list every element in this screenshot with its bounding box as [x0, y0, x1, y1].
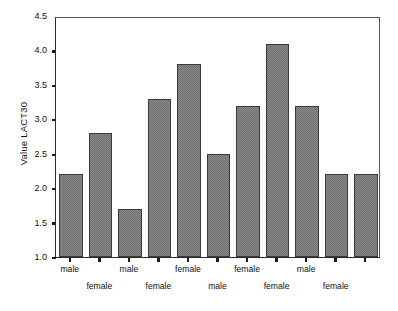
x-axis-tick-mark	[157, 258, 159, 262]
bar	[266, 44, 290, 257]
y-axis-tick-label: 4.0	[34, 45, 47, 55]
plot-area	[55, 17, 380, 258]
y-axis-tick-label: 1.5	[34, 218, 47, 228]
bar	[295, 106, 319, 257]
bar	[148, 99, 172, 257]
bar	[118, 209, 142, 257]
x-axis-tick-mark	[246, 258, 248, 262]
x-axis-label: female	[175, 264, 201, 274]
x-axis-tick-mark	[98, 258, 100, 262]
x-axis-label: male	[208, 281, 227, 291]
x-axis-tick-mark	[69, 258, 71, 262]
x-axis-label: female	[86, 281, 112, 291]
x-axis-label: female	[234, 264, 260, 274]
x-axis-tick-mark	[216, 258, 218, 262]
bar	[207, 154, 231, 257]
bar	[177, 64, 201, 257]
bar	[89, 133, 113, 257]
bar	[325, 174, 349, 257]
x-axis-label: male	[297, 264, 316, 274]
x-axis-label: female	[264, 281, 290, 291]
bar	[236, 106, 260, 257]
bar-chart: Value LACT30 4.54.03.53.02.52.01.51.0 ma…	[0, 0, 398, 311]
x-axis-label: female	[323, 281, 349, 291]
x-axis-tick-mark	[305, 258, 307, 262]
x-axis-label: male	[60, 264, 79, 274]
y-axis-tick-label: 1.0	[34, 252, 47, 262]
bar	[354, 174, 378, 257]
x-axis-label: male	[120, 264, 139, 274]
x-axis-tick-mark	[187, 258, 189, 262]
y-axis-tick-label: 2.0	[34, 183, 47, 193]
x-axis-tick-mark	[334, 258, 336, 262]
y-axis-tick-label: 2.5	[34, 149, 47, 159]
x-axis-tick-mark	[364, 258, 366, 262]
bar	[59, 174, 83, 257]
y-axis-tick-label: 3.0	[34, 114, 47, 124]
x-axis-label: female	[146, 281, 172, 291]
y-axis-tick-label: 3.5	[34, 80, 47, 90]
x-axis-tick-mark	[275, 258, 277, 262]
x-axis-tick-mark	[128, 258, 130, 262]
y-axis-tick-label: 4.5	[34, 11, 47, 21]
y-axis-title: Value LACT30	[18, 64, 29, 204]
